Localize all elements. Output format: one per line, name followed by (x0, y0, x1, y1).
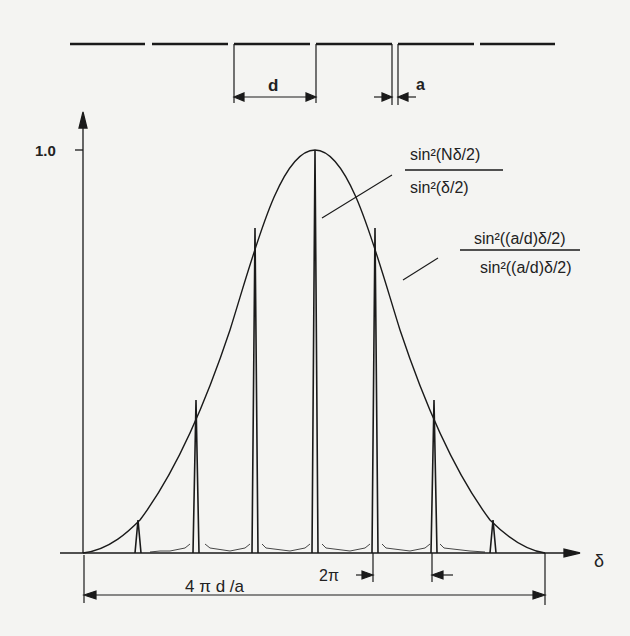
d-label: d (268, 76, 278, 95)
period-label: 2π (319, 567, 339, 584)
envelope-width-dimension (84, 553, 545, 605)
interference-denominator: sin²(δ/2) (410, 179, 469, 196)
y-tick-1: 1.0 (35, 142, 56, 159)
x-axis-label: δ (594, 551, 604, 571)
envelope-denominator: sin²((a/d)δ/2) (480, 259, 572, 276)
period-dimension (356, 553, 453, 582)
a-label: a (416, 76, 425, 93)
axes (60, 112, 580, 557)
grating-dimensions (234, 44, 416, 105)
envelope-width-label: 4 π d /a (185, 577, 245, 596)
envelope-numerator: sin²((a/d)δ/2) (474, 230, 566, 247)
interference-numerator: sin²(Nδ/2) (410, 146, 480, 163)
interference-leader (322, 175, 392, 218)
envelope-leader (403, 258, 438, 280)
diffraction-diagram: d a 1.0 δ sin²(Nδ/2) sin²(δ/2) sin²((a/d… (0, 0, 630, 636)
principal-maxima (135, 150, 496, 553)
